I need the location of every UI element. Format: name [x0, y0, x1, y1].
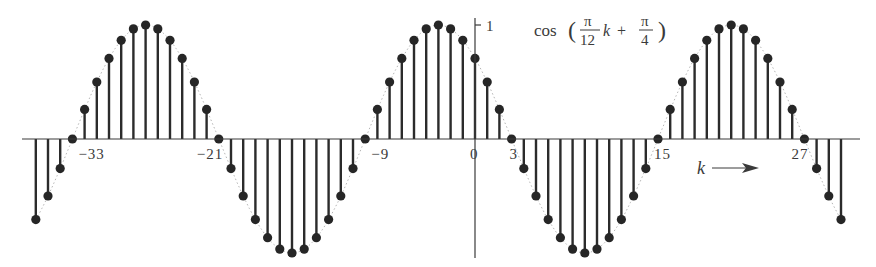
formula-frac1-num: π: [584, 13, 592, 29]
formula-frac2-num: π: [641, 13, 649, 29]
stem-marker: [263, 233, 272, 242]
stem-marker: [31, 215, 40, 224]
stem-marker: [556, 233, 565, 242]
stem-plot: 1 −33−21−9031527 cos ( π 12 k + π 4 ) k: [0, 0, 876, 267]
stem-marker: [727, 20, 736, 29]
stem-marker: [348, 164, 357, 173]
x-tick-label: −33: [78, 146, 104, 162]
stem-marker: [666, 105, 675, 114]
stem-marker: [117, 36, 126, 45]
stem-marker: [775, 77, 784, 86]
stem-marker: [409, 36, 418, 45]
stem-marker: [751, 36, 760, 45]
stem-marker: [312, 233, 321, 242]
stem-marker: [275, 245, 284, 254]
stem-marker: [836, 215, 845, 224]
formula-close-paren: ): [658, 17, 666, 43]
stem-marker: [141, 20, 150, 29]
stem-marker: [605, 233, 614, 242]
stem-marker: [226, 164, 235, 173]
x-tick-label: 0: [470, 146, 479, 162]
x-tick-label: 15: [654, 146, 671, 162]
stem-marker: [678, 77, 687, 86]
formula-cos: cos: [534, 21, 557, 40]
stem-marker: [483, 77, 492, 86]
stem-marker: [446, 24, 455, 33]
stem-marker: [397, 54, 406, 63]
stem-marker: [56, 164, 65, 173]
stem-marker: [92, 77, 101, 86]
stem-marker: [812, 164, 821, 173]
stem-marker: [153, 24, 162, 33]
stem-marker: [458, 36, 467, 45]
stem-marker: [373, 105, 382, 114]
stem-marker: [641, 164, 650, 173]
x-tick-label: −21: [197, 146, 223, 162]
stem-marker: [495, 105, 504, 114]
stem-marker: [251, 215, 260, 224]
stem-marker: [629, 191, 638, 200]
formula-open-paren: (: [568, 17, 576, 43]
stem-marker: [336, 191, 345, 200]
x-axis-label: k: [697, 158, 706, 178]
stem-marker: [568, 245, 577, 254]
x-tick-label: 3: [510, 146, 518, 162]
x-tick-label: −9: [371, 146, 389, 162]
stem-marker: [714, 24, 723, 33]
stem-marker: [104, 54, 113, 63]
stem-marker: [519, 164, 528, 173]
y-tick-label: 1: [486, 18, 494, 34]
stem-marker: [287, 248, 296, 257]
arrow-right-icon: [712, 163, 759, 173]
stem-marker: [300, 245, 309, 254]
formula-annotation: cos ( π 12 k + π 4 ): [534, 13, 666, 48]
stem-marker: [788, 105, 797, 114]
formula-k: k: [603, 22, 611, 39]
stem-marker: [824, 191, 833, 200]
formula-plus: +: [617, 22, 626, 39]
stem-marker: [702, 36, 711, 45]
stem-marker: [165, 36, 174, 45]
stem-marker: [239, 191, 248, 200]
formula-frac2-den: 4: [641, 32, 649, 48]
stem-marker: [592, 245, 601, 254]
stem-marker: [690, 54, 699, 63]
stem-marker: [422, 24, 431, 33]
stem-marker: [43, 191, 52, 200]
stem-marker: [434, 20, 443, 29]
stem-marker: [178, 54, 187, 63]
stem-marker: [202, 105, 211, 114]
stem-marker: [544, 215, 553, 224]
stem-marker: [129, 24, 138, 33]
x-tick-label: 27: [791, 146, 808, 162]
stem-marker: [385, 77, 394, 86]
stem-marker: [80, 105, 89, 114]
stem-marker: [531, 191, 540, 200]
stem-marker: [617, 215, 626, 224]
stem-marker: [190, 77, 199, 86]
stem-marker: [580, 248, 589, 257]
formula-frac1-den: 12: [580, 32, 595, 48]
stem-marker: [739, 24, 748, 33]
stem-marker: [324, 215, 333, 224]
stem-marker: [763, 54, 772, 63]
